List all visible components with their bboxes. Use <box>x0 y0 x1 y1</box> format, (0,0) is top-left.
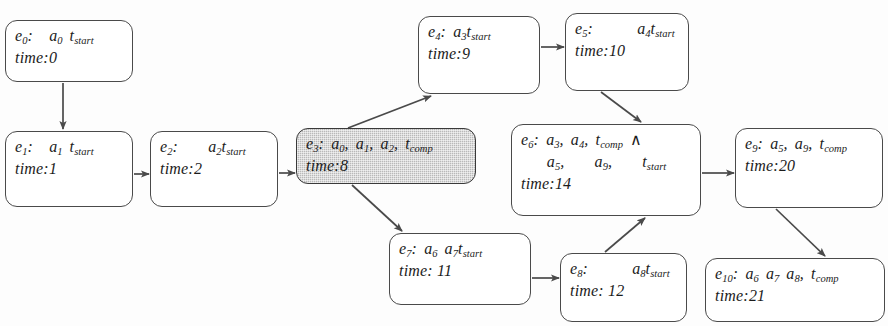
node-e8-time: time: 12 <box>570 281 678 301</box>
node-e9-header: e9:a5,a9,tcomp <box>745 134 874 156</box>
node-e2[interactable]: e2:a2tstart time:2 <box>150 131 278 207</box>
node-e5[interactable]: e5:a4tstart time:10 <box>565 13 689 91</box>
node-e4-time: time:9 <box>428 44 531 64</box>
edge-e5-e6 <box>601 92 641 122</box>
node-e0-header: e0:a0tstart <box>15 26 124 48</box>
node-e4-header: e4:a3tstart <box>428 22 531 44</box>
edge-e9-e10 <box>776 209 825 256</box>
node-e7-header: e7:a6a7tstart <box>399 239 522 261</box>
node-e7[interactable]: e7:a6a7tstart time: 11 <box>389 233 531 305</box>
node-e9[interactable]: e9:a5,a9,tcomp time:20 <box>735 128 883 208</box>
node-e6-time: time:14 <box>521 174 692 194</box>
node-e5-time: time:10 <box>575 41 680 61</box>
node-e10-time: time:21 <box>715 286 876 306</box>
edge-e3-e4 <box>348 96 431 128</box>
node-e6[interactable]: e6:a3,a4,tcomp∧ a5,a9,tstart time:14 <box>511 124 701 216</box>
edge-e3-e7 <box>352 185 402 231</box>
edge-e8-e6 <box>605 218 645 252</box>
node-e1[interactable]: e1:a1tstart time:1 <box>5 131 133 207</box>
node-e7-time: time: 11 <box>399 261 522 281</box>
node-e10-header: e10:a6a7a8,tcomp <box>715 264 876 286</box>
node-e2-header: e2:a2tstart <box>160 137 269 159</box>
node-e3-header: e3:a0,a1,a2,tcomp <box>306 134 467 156</box>
node-e10[interactable]: e10:a6a7a8,tcomp time:21 <box>705 258 885 322</box>
node-e8[interactable]: e8:a8tstart time: 12 <box>560 253 687 322</box>
node-e3-time: time:8 <box>306 156 467 176</box>
node-e8-header: e8:a8tstart <box>570 259 678 281</box>
node-e9-time: time:20 <box>745 156 874 176</box>
node-e0[interactable]: e0:a0tstart time:0 <box>5 20 133 82</box>
node-e5-header: e5:a4tstart <box>575 19 680 41</box>
diagram-canvas: e0:a0tstart time:0 e1:a1tstart time:1 e2… <box>0 0 888 326</box>
node-e6-line2: a5,a9,tstart <box>521 152 692 174</box>
node-e1-time: time:1 <box>15 159 124 179</box>
conjunction-symbol: ∧ <box>630 131 642 148</box>
node-e4[interactable]: e4:a3tstart time:9 <box>418 16 540 94</box>
node-e0-time: time:0 <box>15 48 124 68</box>
node-e1-header: e1:a1tstart <box>15 137 124 159</box>
node-e3[interactable]: e3:a0,a1,a2,tcomp time:8 <box>296 128 476 184</box>
node-e2-time: time:2 <box>160 159 269 179</box>
node-e6-header: e6:a3,a4,tcomp∧ <box>521 130 692 152</box>
